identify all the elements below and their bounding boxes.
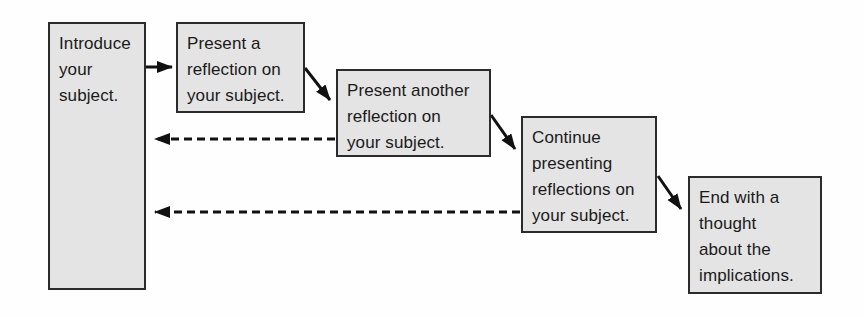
- flow-box-introduce-subject: Introduce your subject.: [48, 22, 146, 290]
- flowchart-diagram: Introduce your subject. Present a reflec…: [0, 0, 864, 317]
- flow-box-present-another-reflection: Present another reflection on your subje…: [336, 69, 491, 157]
- flow-box-present-reflection: Present a reflection on your subject.: [176, 22, 305, 113]
- solid-arrow-another-to-continue: [491, 115, 515, 149]
- flow-box-end-implications: End with a thought about the implication…: [688, 176, 822, 294]
- solid-arrow-first-to-another-reflection: [305, 68, 330, 100]
- solid-arrow-continue-to-end: [658, 176, 681, 209]
- flow-box-continue-reflections: Continue presenting reflections on your …: [521, 116, 657, 233]
